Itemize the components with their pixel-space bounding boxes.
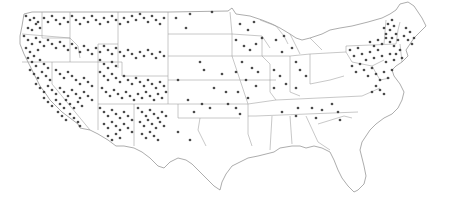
point-marker	[143, 125, 146, 128]
point-marker	[151, 15, 154, 18]
point-marker	[247, 97, 250, 100]
point-marker	[67, 71, 70, 74]
point-marker	[209, 107, 212, 110]
point-marker	[297, 107, 300, 110]
point-marker	[99, 23, 102, 26]
point-marker	[111, 139, 114, 142]
point-marker	[353, 55, 356, 58]
point-marker	[127, 21, 130, 24]
point-marker	[57, 111, 60, 114]
point-marker	[369, 41, 372, 44]
point-marker	[337, 111, 340, 114]
point-marker	[31, 29, 34, 32]
point-marker	[389, 53, 392, 56]
point-marker	[63, 77, 66, 80]
point-marker	[165, 115, 168, 118]
point-marker	[131, 83, 134, 86]
point-marker	[55, 93, 58, 96]
point-marker	[151, 123, 154, 126]
point-marker	[91, 85, 94, 88]
point-marker	[107, 21, 110, 24]
point-marker	[73, 107, 76, 110]
point-marker	[117, 93, 120, 96]
point-marker	[35, 83, 38, 86]
state-boundary-line	[178, 104, 240, 118]
point-marker	[79, 23, 82, 26]
point-marker	[377, 39, 380, 42]
point-marker	[139, 13, 142, 16]
point-marker	[157, 93, 160, 96]
point-marker	[213, 87, 216, 90]
point-marker	[157, 117, 160, 120]
point-marker	[145, 115, 148, 118]
point-marker	[65, 119, 68, 122]
point-marker	[227, 103, 230, 106]
point-marker	[161, 111, 164, 114]
point-marker	[163, 55, 166, 58]
point-marker	[159, 81, 162, 84]
point-marker	[43, 17, 46, 20]
state-boundary-line	[198, 118, 206, 146]
point-marker	[239, 23, 242, 26]
point-marker	[111, 73, 114, 76]
point-marker	[389, 29, 392, 32]
point-marker	[401, 57, 404, 60]
point-marker	[115, 77, 118, 80]
point-marker	[275, 39, 278, 42]
point-marker	[51, 15, 54, 18]
point-marker	[51, 43, 54, 46]
point-marker	[235, 71, 238, 74]
point-marker	[241, 61, 244, 64]
point-marker	[155, 87, 158, 90]
point-marker	[391, 37, 394, 40]
point-marker	[69, 113, 72, 116]
state-boundary-line	[232, 34, 270, 48]
point-marker	[367, 75, 370, 78]
point-marker	[281, 51, 284, 54]
point-marker	[83, 45, 86, 48]
point-marker	[163, 17, 166, 20]
point-marker	[63, 45, 66, 48]
point-marker	[119, 81, 122, 84]
point-marker	[331, 103, 334, 106]
state-boundary-line	[22, 34, 70, 38]
point-marker	[63, 17, 66, 20]
point-marker	[83, 91, 86, 94]
point-marker	[137, 107, 140, 110]
point-marker	[361, 53, 364, 56]
point-marker	[375, 85, 378, 88]
point-marker	[139, 51, 142, 54]
point-marker	[75, 19, 78, 22]
point-marker	[27, 39, 30, 42]
state-boundary-line	[310, 76, 344, 84]
point-marker	[33, 17, 36, 20]
point-marker	[63, 107, 66, 110]
point-marker	[27, 27, 30, 30]
point-marker	[383, 71, 386, 74]
point-marker	[339, 119, 342, 122]
point-marker	[39, 87, 42, 90]
point-marker	[163, 85, 166, 88]
point-marker	[79, 97, 82, 100]
point-marker	[385, 37, 388, 40]
point-marker	[139, 121, 142, 124]
point-marker	[119, 51, 122, 54]
point-marker	[139, 81, 142, 84]
point-marker	[65, 99, 68, 102]
point-marker	[83, 77, 86, 80]
point-marker	[39, 27, 42, 30]
point-marker	[107, 49, 110, 52]
point-marker	[67, 95, 70, 98]
point-marker	[25, 15, 28, 18]
point-marker	[47, 21, 50, 24]
state-boundary-line	[276, 96, 362, 100]
point-marker	[273, 69, 276, 72]
point-marker	[115, 47, 118, 50]
point-marker	[279, 75, 282, 78]
point-marker	[147, 21, 150, 24]
point-marker	[75, 79, 78, 82]
point-marker	[385, 33, 388, 36]
point-marker	[105, 91, 108, 94]
point-marker	[49, 79, 52, 82]
point-marker	[281, 111, 284, 114]
